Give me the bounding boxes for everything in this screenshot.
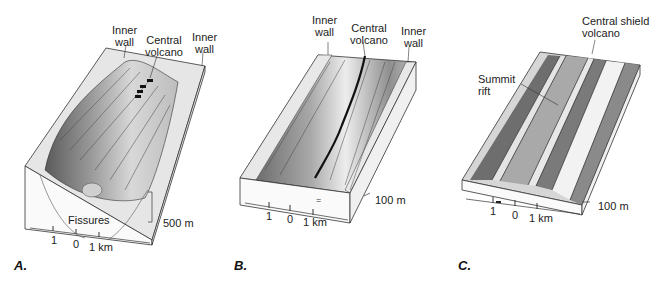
label-line: rift: [478, 85, 515, 97]
label-line: volcano: [350, 34, 388, 46]
vertical-scale-label: 500 m: [163, 217, 194, 229]
central-volcano-label: Central volcano: [350, 22, 388, 46]
label-line: Central shield: [582, 15, 649, 27]
label-line: Central: [145, 34, 183, 46]
label-line: Central: [350, 22, 388, 34]
svg-text:=: =: [316, 195, 321, 205]
inner-wall-right-label: Inner wall: [401, 25, 426, 49]
inner-wall-right-label: Inner wall: [192, 31, 217, 55]
label-line: wall: [312, 26, 337, 38]
inner-wall-left-label: Inner wall: [312, 14, 337, 38]
panel-a: Inner wall Central volcano Inner wall Fi…: [0, 0, 230, 289]
label-line: wall: [401, 37, 426, 49]
scale-tick-1: 1: [490, 205, 496, 217]
vertical-scale-label: 100 m: [375, 194, 406, 206]
label-line: Inner: [192, 31, 217, 43]
central-volcano-label: Central volcano: [145, 34, 183, 58]
vertical-scale-label: 100 m: [598, 200, 629, 212]
panel-b: = Inner wall Central volcano Inner wall …: [220, 0, 440, 289]
scale-tick-1km: 1 km: [529, 212, 553, 224]
scale-tick-0: 0: [287, 213, 293, 225]
panel-c: Central shield volcano Summit rift 1 0 1…: [440, 0, 665, 289]
block-diagram-c: [440, 0, 665, 289]
label-line: Inner: [112, 24, 137, 36]
summit-rift-label: Summit rift: [478, 73, 515, 97]
scale-tick-0: 0: [512, 209, 518, 221]
scale-tick-1km: 1 km: [89, 241, 113, 253]
label-line: Inner: [401, 25, 426, 37]
fissures-label: Fissures: [68, 214, 110, 226]
panel-label-b: B.: [234, 258, 247, 273]
label-line: wall: [112, 36, 137, 48]
label-line: wall: [192, 43, 217, 55]
scale-tick-0: 0: [73, 238, 79, 250]
scale-tick-1: 1: [51, 234, 57, 246]
label-line: Inner: [312, 14, 337, 26]
label-line: Summit: [478, 73, 515, 85]
inner-wall-left-label: Inner wall: [112, 24, 137, 48]
scale-tick-1: 1: [266, 210, 272, 222]
central-shield-volcano-label: Central shield volcano: [582, 15, 649, 39]
panel-label-c: C.: [458, 258, 471, 273]
scale-tick-1km: 1 km: [303, 216, 327, 228]
label-line: volcano: [582, 27, 649, 39]
panel-label-a: A.: [14, 258, 27, 273]
label-line: volcano: [145, 46, 183, 58]
